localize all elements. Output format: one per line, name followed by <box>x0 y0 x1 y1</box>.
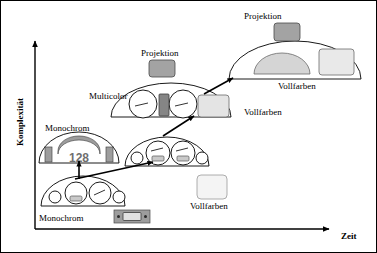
projection-node-mid: Projektion <box>141 48 179 77</box>
lcd-strip-screen <box>123 213 141 221</box>
projection-display-box-top <box>274 23 300 41</box>
projection-node-top: Projektion <box>244 11 300 41</box>
gauge-lcd-window-left-mid <box>152 156 164 161</box>
stage-5-caption: Vollfarben <box>278 81 316 91</box>
y-axis-title: Komplexität <box>15 98 25 146</box>
lcd-strip-dot-right <box>144 215 147 218</box>
stage-2-caption: Monochrom <box>45 123 90 133</box>
diagram-canvas: Komplexität Zeit Monochrom <box>1 1 377 253</box>
gauge-small-left-mid <box>131 152 143 164</box>
stage-2-monochrom-128-cluster: 128 Monochrom <box>39 123 119 165</box>
gauge-small-right <box>113 191 125 203</box>
projection-label-mid: Projektion <box>141 48 179 58</box>
projection-display-box-mid <box>149 60 175 77</box>
gauge-large-right-mid <box>171 141 195 165</box>
gauge-large-right <box>89 182 111 204</box>
gauge-small-right-mid <box>196 152 208 164</box>
gauge-small-left <box>49 191 61 203</box>
gauge-large-left-mid <box>146 141 170 165</box>
vollfarben-free-display: Vollfarben <box>190 175 228 211</box>
monochrome-lcd-strip <box>114 210 150 223</box>
bargraph-right <box>106 147 113 162</box>
colour-screen-multicolor <box>198 95 229 117</box>
x-axis-title: Zeit <box>341 231 357 241</box>
central-bar-display-multicolor <box>159 94 169 116</box>
vollfarben-display-box <box>197 175 227 199</box>
arrow-stage4-to-stage5 <box>204 78 233 94</box>
projection-label-top: Projektion <box>244 11 282 21</box>
stage-1-caption: Monochrom <box>39 213 84 223</box>
bargraph-left <box>45 147 52 162</box>
stage-4-multicolor-cluster: Multicolor Vollfarben <box>89 83 282 118</box>
lcd-strip-dot-left <box>117 215 120 218</box>
vollfarben-free-label: Vollfarben <box>190 201 228 211</box>
stage-5-vollfarben-cluster: Vollfarben <box>229 41 361 91</box>
stage-4-secondary-caption: Vollfarben <box>244 107 282 117</box>
stage-3-intermediate-cluster <box>125 137 209 166</box>
gauge-lcd-window-left <box>70 196 82 201</box>
colour-screen-vollfarben <box>319 49 354 75</box>
evolution-diagram-figure: Komplexität Zeit Monochrom <box>0 0 377 253</box>
gauge-lcd-window-right-mid <box>177 156 189 161</box>
stage-4-caption: Multicolor <box>89 91 128 101</box>
arrow-stage3-to-stage4 <box>163 116 194 136</box>
stage-1-monochrom-cluster: Monochrom <box>39 176 150 223</box>
